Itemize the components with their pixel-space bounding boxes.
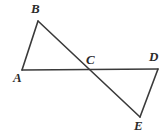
geometry-drawing <box>0 0 168 136</box>
vertex-label-c: C <box>86 53 95 66</box>
segment-de <box>140 69 158 117</box>
vertex-label-e: E <box>134 119 143 132</box>
segment-ab <box>22 21 38 70</box>
vertex-label-d: D <box>149 50 158 63</box>
geometry-figure: A B C D E <box>0 0 168 136</box>
vertex-label-a: A <box>13 71 22 84</box>
vertex-label-b: B <box>31 2 40 15</box>
